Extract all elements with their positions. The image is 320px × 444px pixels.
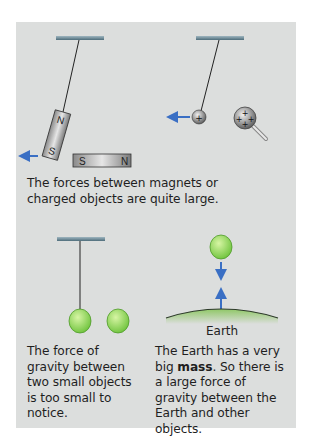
earth-label: Earth (206, 324, 238, 338)
earth-apple-illustration (166, 235, 278, 324)
magnet-illustration: N S S N (24, 36, 131, 167)
svg-text:+: + (195, 113, 203, 123)
caption-top: The forces between magnets or charged ob… (27, 176, 267, 207)
mass-term: mass (177, 360, 212, 374)
svg-text:+: + (248, 115, 255, 124)
two-apples-illustration (57, 237, 129, 333)
apple (69, 309, 91, 333)
svg-text:+: + (242, 120, 249, 129)
svg-text:N: N (121, 156, 128, 167)
support-bar (56, 36, 104, 40)
apple (107, 309, 129, 333)
charge-illustration: + + + + + (172, 36, 266, 139)
apple (210, 235, 232, 259)
caption-bottom-left: The force of gravity between two small o… (27, 344, 142, 422)
caption-bottom-right: The Earth has a very big mass. So there … (155, 344, 290, 437)
svg-text:S: S (79, 156, 86, 167)
